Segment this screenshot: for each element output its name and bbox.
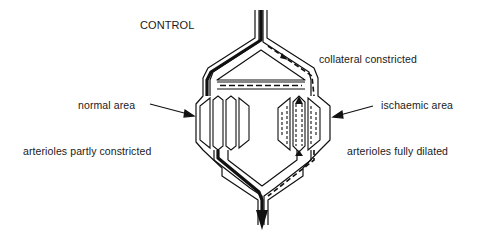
vessel-wall-inner xyxy=(210,10,259,96)
vessel-wall-inner xyxy=(264,150,311,225)
blood-flow-reduced xyxy=(268,46,314,196)
pointer-arrow-ischaemic xyxy=(333,106,373,118)
blood-flow-main xyxy=(207,10,262,218)
left-capillary-bed xyxy=(200,96,249,150)
vascular-diagram xyxy=(0,0,491,234)
flow-arrow-icon xyxy=(280,53,303,156)
pointer-arrow-normal xyxy=(150,104,194,117)
vessel-wall-inner xyxy=(263,10,311,96)
right-capillary-bed xyxy=(278,96,320,152)
